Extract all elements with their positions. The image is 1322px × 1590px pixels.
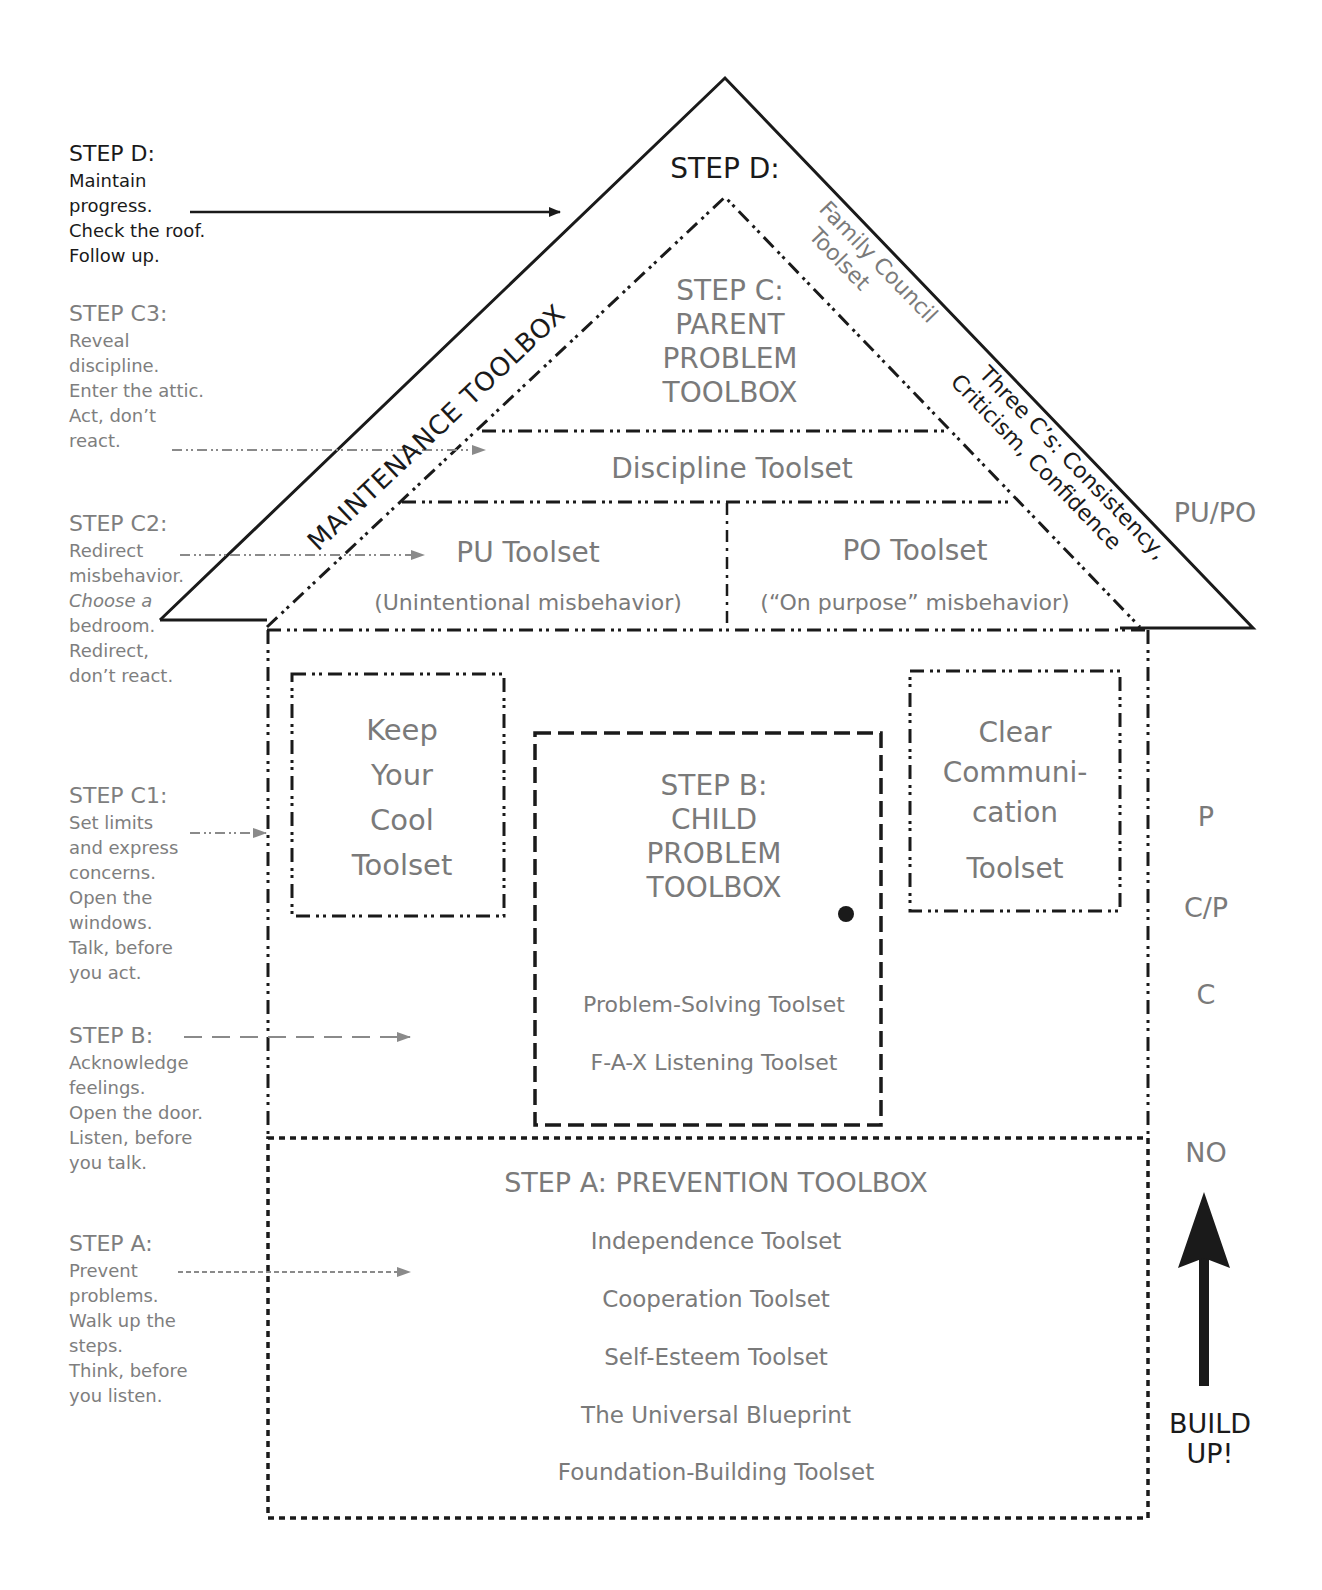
discipline-toolset-label: Discipline Toolset: [611, 452, 853, 485]
pupo-level-label: PU/PO: [1174, 497, 1257, 528]
svg-text:Toolset: Toolset: [351, 848, 453, 882]
svg-text:TOOLBOX: TOOLBOX: [646, 871, 782, 904]
step-b-heading: STEP B: CHILD PROBLEM TOOLBOX: [646, 769, 782, 904]
po-toolset-label: PO Toolset: [842, 534, 987, 567]
build-up-arrow-icon: [1178, 1192, 1230, 1386]
po-toolset-sub: (“On purpose” misbehavior): [760, 590, 1069, 615]
svg-text:TOOLBOX: TOOLBOX: [662, 376, 798, 409]
foundation-tool-item: Foundation-Building Toolset: [558, 1459, 874, 1485]
svg-text:Cool: Cool: [370, 803, 434, 837]
clear-comm-label: Clear Communi- cation Toolset: [943, 716, 1088, 885]
svg-text:STEP C:: STEP C:: [676, 274, 783, 307]
annotation-step-c3: STEP C3: Reveal discipline. Enter the at…: [69, 300, 204, 453]
pu-toolset-sub: (Unintentional misbehavior): [374, 590, 682, 615]
foundation-tool-item: Self-Esteem Toolset: [604, 1344, 828, 1370]
svg-text:Communi-: Communi-: [943, 756, 1088, 789]
foundation-tool-item: Independence Toolset: [591, 1228, 842, 1254]
svg-text:Clear: Clear: [978, 716, 1052, 749]
build-up-label-2: UP!: [1187, 1438, 1234, 1469]
svg-text:Criticism, Confidence: Criticism, Confidence: [946, 369, 1127, 555]
svg-text:STEP B:: STEP B:: [661, 769, 768, 802]
foundation-tool-item: The Universal Blueprint: [580, 1402, 851, 1428]
svg-text:PROBLEM: PROBLEM: [646, 837, 781, 870]
svg-text:Three C’s: Consistency,: Three C’s: Consistency,: [974, 360, 1172, 564]
annotation-step-a: STEP A: Prevent problems. Walk up the st…: [69, 1230, 188, 1408]
svg-text:Your: Your: [370, 758, 433, 792]
fax-listening-label: F-A-X Listening Toolset: [591, 1050, 838, 1075]
maintenance-toolbox-label: MAINTENANCE TOOLBOX: [301, 298, 571, 556]
family-council-label: Family Council Toolset: [796, 196, 943, 346]
door-knob-icon: [838, 906, 854, 922]
c-level-label: C: [1197, 979, 1216, 1010]
svg-text:Keep: Keep: [366, 713, 438, 747]
problem-solving-label: Problem-Solving Toolset: [583, 992, 845, 1017]
keep-cool-label: Keep Your Cool Toolset: [351, 713, 453, 882]
no-level-label: NO: [1185, 1137, 1226, 1168]
svg-text:Toolset: Toolset: [965, 852, 1063, 885]
pu-toolset-label: PU Toolset: [456, 536, 599, 569]
svg-text:PARENT: PARENT: [675, 308, 785, 341]
cp-level-label: C/P: [1184, 892, 1228, 923]
build-up-label: BUILD: [1169, 1408, 1251, 1439]
svg-text:CHILD: CHILD: [671, 803, 757, 836]
svg-text:PROBLEM: PROBLEM: [662, 342, 797, 375]
prevention-toolbox-title: STEP A: PREVENTION TOOLBOX: [504, 1167, 928, 1198]
annotation-step-c2: STEP C2: Redirect misbehavior. Choose a …: [69, 510, 184, 688]
annotation-step-c1: STEP C1: Set limits and express concerns…: [69, 782, 178, 985]
step-c-heading: STEP C: PARENT PROBLEM TOOLBOX: [662, 274, 798, 409]
annotation-step-d: STEP D: Maintain progress. Check the roo…: [69, 140, 205, 268]
roof-step-d-label: STEP D:: [670, 152, 779, 185]
svg-text:cation: cation: [972, 796, 1058, 829]
foundation-tool-item: Cooperation Toolset: [602, 1286, 830, 1312]
p-level-label: P: [1198, 801, 1214, 832]
annotation-step-b: STEP B: Acknowledge feelings. Open the d…: [69, 1022, 203, 1175]
